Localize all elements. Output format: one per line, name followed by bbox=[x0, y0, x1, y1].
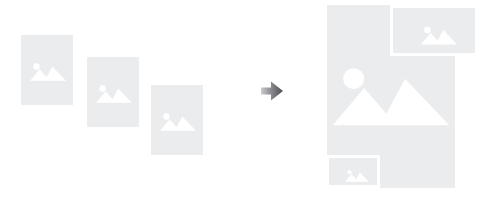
collage-illustration bbox=[0, 0, 490, 199]
image-placeholder-icon bbox=[408, 22, 470, 48]
collage-bottom-left-card[interactable] bbox=[326, 155, 380, 188]
collage-result-group bbox=[0, 0, 490, 199]
image-placeholder-icon bbox=[338, 167, 376, 184]
collage-top-right-card[interactable] bbox=[390, 5, 478, 56]
image-placeholder-icon bbox=[332, 53, 450, 137]
